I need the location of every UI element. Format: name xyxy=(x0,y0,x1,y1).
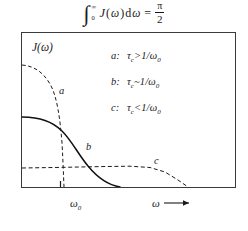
legend-key-c: c: xyxy=(111,102,127,113)
y-axis-label-text: J(ω) xyxy=(32,41,53,53)
legend-value-b: τc~1/ω0 xyxy=(127,76,159,90)
x-tick-label-subscript: 0 xyxy=(78,204,82,212)
legend-key-b: b: xyxy=(111,76,127,87)
curve-c-path xyxy=(22,166,188,187)
legend-row-a: a: τc>1/ω0 xyxy=(111,50,161,76)
legend-row-b: b: τc~1/ω0 xyxy=(111,76,161,102)
relation-c: <1/ xyxy=(134,102,150,113)
legend-value-a: τc>1/ω0 xyxy=(127,50,161,64)
legend-key-a: a: xyxy=(111,50,127,61)
curve-a-path xyxy=(22,65,64,187)
y-axis-label: J(ω) xyxy=(32,41,53,53)
x-tick-label-omega0: ω0 xyxy=(70,197,81,212)
legend-value-c: τc<1/ω0 xyxy=(127,102,161,116)
curve-label-c: c xyxy=(154,155,159,166)
curve-label-a: a xyxy=(59,85,64,96)
relation-a: >1/ xyxy=(134,50,150,61)
relation-b: ~1/ xyxy=(134,76,148,87)
x-axis-label: ω xyxy=(152,197,160,209)
x-axis-arrow xyxy=(164,200,189,206)
curve-label-b: b xyxy=(86,141,91,152)
curve-b-path xyxy=(22,117,120,187)
x-tick-label-omega: ω xyxy=(70,197,78,209)
omega-subscript-a: 0 xyxy=(157,56,161,64)
legend: a: τc>1/ω0 b: τc~1/ω0 c: τc<1/ω0 xyxy=(111,50,161,128)
omega-symbol-b: ω xyxy=(148,76,156,87)
omega-subscript-b: 0 xyxy=(156,82,160,90)
omega-subscript-c: 0 xyxy=(157,108,161,116)
legend-row-c: c: τc<1/ω0 xyxy=(111,102,161,128)
figure-panel: ∫ ∞ 0 J ( ω ) d ω = π 2 xyxy=(0,0,248,231)
